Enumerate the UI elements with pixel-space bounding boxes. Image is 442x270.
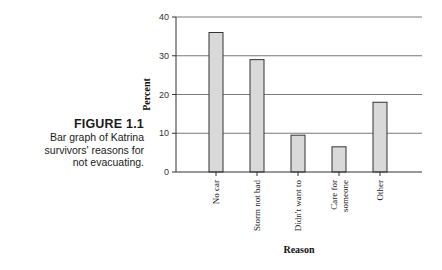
y-tick-label: 30 — [159, 51, 169, 61]
bars — [209, 33, 387, 173]
bar — [209, 33, 223, 173]
y-tick-labels: 010203040 — [159, 12, 169, 177]
x-tick-labels: No carStorm not badDidn't want toCare fo… — [211, 180, 385, 232]
y-tick-label: 20 — [159, 90, 169, 100]
bar — [250, 60, 264, 172]
bar — [332, 147, 346, 172]
bar-chart: 010203040 No carStorm not badDidn't want… — [0, 0, 442, 270]
x-category-label: Didn't want to — [293, 180, 303, 232]
x-category-label: Care for — [329, 180, 339, 210]
x-category-label: No car — [211, 180, 221, 204]
y-axis-title: Percent — [141, 78, 152, 111]
x-axis-title: Reason — [283, 244, 315, 255]
bar — [291, 135, 305, 172]
bar — [373, 102, 387, 172]
y-tick-label: 40 — [159, 12, 169, 22]
y-tick-label: 0 — [164, 167, 169, 177]
x-category-label: Other — [375, 180, 385, 201]
y-tick-label: 10 — [159, 128, 169, 138]
x-category-label: someone — [340, 180, 350, 212]
x-category-label: Storm not bad — [252, 180, 262, 231]
